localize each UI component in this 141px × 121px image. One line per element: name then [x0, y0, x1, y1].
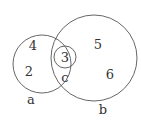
label-a: a [27, 92, 35, 107]
element-6: 6 [106, 67, 114, 82]
label-b: b [99, 102, 107, 117]
element-3: 3 [61, 50, 69, 65]
element-5: 5 [94, 37, 102, 52]
element-2: 2 [25, 64, 33, 79]
label-c: c [61, 70, 68, 85]
element-4: 4 [29, 38, 37, 53]
venn-diagram: 4 2 3 c 5 6 a b [0, 0, 141, 121]
